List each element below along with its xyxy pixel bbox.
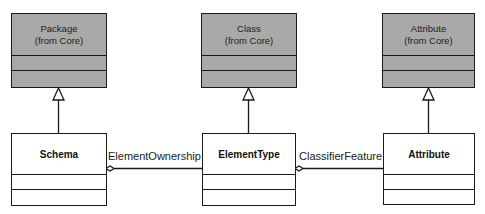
attributes-compartment: [12, 56, 106, 71]
inheritance-arrow-icon: [53, 88, 64, 100]
class-box-package[interactable]: Package (from Core): [11, 13, 107, 88]
operations-compartment: [202, 71, 296, 87]
class-origin: (from Core): [225, 35, 274, 47]
aggregation-diamond-icon: [106, 166, 114, 171]
class-name-text: Package: [41, 23, 78, 35]
class-box-attribute-core[interactable]: Attribute (from Core): [382, 13, 475, 88]
class-box-class[interactable]: Class (from Core): [201, 13, 297, 88]
attributes-compartment: [12, 175, 106, 190]
inheritance-arrow-icon: [243, 88, 254, 100]
class-name-text: Class: [237, 23, 261, 35]
class-name: Attribute (from Core): [383, 14, 474, 56]
class-name-text: Schema: [40, 149, 78, 160]
inheritance-arrow-icon: [423, 88, 434, 100]
class-box-attribute[interactable]: Attribute: [383, 133, 475, 205]
class-box-schema[interactable]: Schema: [11, 133, 107, 206]
operations-compartment: [203, 190, 295, 205]
attributes-compartment: [383, 56, 474, 71]
operations-compartment: [383, 71, 474, 87]
operations-compartment: [12, 71, 106, 87]
class-name-text: Attribute: [411, 23, 446, 35]
class-name: Schema: [12, 134, 106, 175]
operations-compartment: [12, 190, 106, 205]
class-name: Attribute: [384, 134, 474, 175]
operations-compartment: [384, 190, 474, 204]
class-name: ElementType: [203, 134, 295, 175]
class-origin: (from Core): [35, 35, 84, 47]
attributes-compartment: [384, 175, 474, 190]
class-name-text: Attribute: [408, 149, 450, 160]
class-name-text: ElementType: [218, 149, 280, 160]
association-label-classifierfeature: ClassifierFeature: [299, 150, 382, 162]
class-name: Package (from Core): [12, 14, 106, 56]
attributes-compartment: [203, 175, 295, 190]
class-origin: (from Core): [404, 35, 453, 47]
aggregation-diamond-icon: [295, 166, 303, 171]
attributes-compartment: [202, 56, 296, 71]
class-name: Class (from Core): [202, 14, 296, 56]
association-label-elementownership: ElementOwnership: [108, 150, 201, 162]
class-box-elementtype[interactable]: ElementType: [202, 133, 296, 206]
